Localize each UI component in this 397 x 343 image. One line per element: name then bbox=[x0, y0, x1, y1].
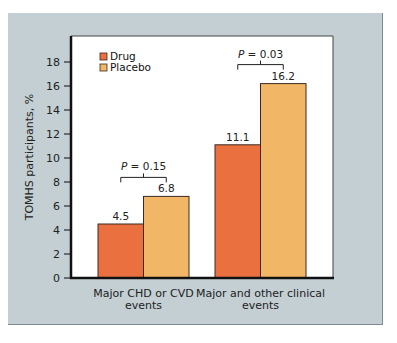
y-tick-label: 8 bbox=[53, 176, 60, 189]
bar-chart: 4.56.811.116.2 P = 0.15P = 0.03 02468101… bbox=[0, 0, 397, 343]
bar-value-label: 16.2 bbox=[272, 70, 295, 82]
bar-value-label: 6.8 bbox=[158, 182, 175, 194]
x-category-label: events bbox=[125, 299, 162, 312]
y-tick-label: 10 bbox=[46, 152, 60, 165]
legend-swatch-drug bbox=[100, 53, 107, 60]
y-tick-label: 18 bbox=[46, 56, 60, 69]
legend-label-placebo: Placebo bbox=[110, 61, 151, 73]
p-value-label: P = 0.03 bbox=[238, 48, 283, 60]
x-axis-categories: Major CHD or CVDeventsMajor and other cl… bbox=[93, 287, 325, 312]
y-tick-label: 4 bbox=[53, 224, 60, 237]
x-category-label: events bbox=[242, 299, 279, 312]
y-axis-ticks: 024681012141618 bbox=[46, 56, 71, 285]
y-tick-label: 16 bbox=[46, 80, 60, 93]
bar-drug bbox=[215, 145, 261, 278]
p-value-label: P = 0.15 bbox=[121, 160, 166, 172]
bar-placebo bbox=[144, 196, 190, 278]
y-tick-label: 2 bbox=[53, 248, 60, 261]
y-axis-label: TOMHS participants, % bbox=[23, 94, 36, 222]
y-tick-label: 14 bbox=[46, 104, 60, 117]
y-tick-label: 0 bbox=[53, 272, 60, 285]
y-tick-label: 6 bbox=[53, 200, 60, 213]
bar-value-label: 11.1 bbox=[226, 131, 249, 143]
bar-placebo bbox=[261, 84, 307, 278]
legend-swatch-placebo bbox=[100, 64, 107, 71]
bar-value-label: 4.5 bbox=[112, 210, 129, 222]
bar-drug bbox=[98, 224, 144, 278]
y-tick-label: 12 bbox=[46, 128, 60, 141]
